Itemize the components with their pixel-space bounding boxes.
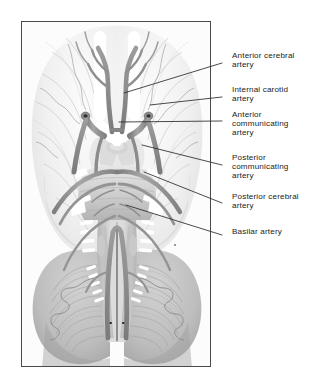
label-basilar-artery: Basilar artery — [232, 227, 282, 236]
illustration-frame — [21, 21, 211, 367]
label-internal-carotid-artery: Internal carotid artery — [232, 85, 288, 103]
label-anterior-communicating-artery: Anterior communicating artery — [232, 110, 289, 138]
label-anterior-cerebral-artery: Anterior cerebral artery — [232, 51, 295, 69]
figure-root: Anterior cerebral artery Internal caroti… — [0, 0, 331, 391]
label-posterior-cerebral-artery: Posterior cerebral artery — [232, 192, 299, 210]
label-posterior-communicating-artery: Posterior communicating artery — [232, 153, 289, 181]
brain-base-illustration — [22, 22, 211, 367]
